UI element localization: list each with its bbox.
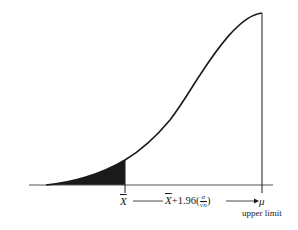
shaded-tail-region: [46, 160, 125, 185]
sigma-over-root-n: σ√n: [200, 194, 207, 209]
confidence-diagram: X X+1.96(σ√n) μ upper limit: [0, 0, 298, 230]
frac-denominator: √n: [200, 202, 207, 209]
diagram-canvas: [0, 0, 298, 230]
mu-label: μ: [259, 196, 265, 207]
upper-limit-label: upper limit: [242, 209, 282, 218]
formula-mid: +1.96(: [172, 195, 200, 206]
distribution-curve: [46, 13, 262, 185]
formula-xbar: X: [165, 194, 172, 206]
xbar-label: X: [120, 196, 127, 207]
formula-suffix: ): [207, 195, 211, 206]
formula-label: X+1.96(σ√n): [165, 194, 210, 209]
